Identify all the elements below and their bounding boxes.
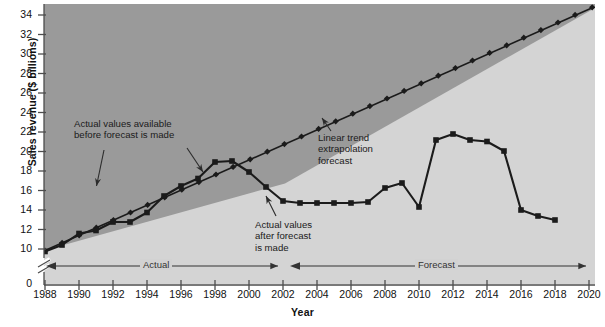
- annotation-trend: Linear trend extrapolation forecast: [318, 132, 373, 166]
- y-axis-title: Sales revenue ($ billions): [26, 22, 38, 182]
- bracket-label-actual: Actual: [140, 259, 172, 270]
- annotation-actual-after: Actual values after forecast is made: [255, 219, 312, 253]
- y-tick-label-zero: 0: [0, 278, 32, 288]
- y-tick-label: 34: [0, 9, 32, 19]
- x-axis-tick-labels: 1988 1990 1992 1994 1996 1998 2000 2002 …: [0, 288, 605, 304]
- range-brackets: Actual Forecast: [0, 259, 605, 273]
- x-tick-label: 2020: [569, 288, 605, 300]
- y-tick-label: 14: [0, 204, 32, 214]
- y-tick-label: 10: [0, 243, 32, 253]
- bracket-label-forecast: Forecast: [415, 259, 458, 270]
- chart-figure: 34 32 30 28 26 24 22 20 18 16 14 12 10 0…: [0, 0, 605, 327]
- x-axis-title: Year: [0, 306, 605, 318]
- y-tick-label: 16: [0, 185, 32, 195]
- y-tick-label: 12: [0, 224, 32, 234]
- annotation-actual-before: Actual values available before forecast …: [74, 118, 174, 141]
- chart-plot-area: [0, 0, 605, 327]
